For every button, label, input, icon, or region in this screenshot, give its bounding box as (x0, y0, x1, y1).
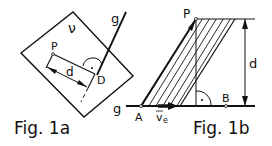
diagram-canvas: ν g P D d Fig. 1a g d P A B v (0, 0, 272, 146)
p-extension (46, 54, 53, 68)
arrowhead-top-1b (242, 19, 248, 29)
label-P-1a: P (51, 40, 58, 53)
label-d-1b: d (249, 56, 257, 71)
label-g-1a: g (111, 11, 119, 26)
right-angle-dot-1a (91, 67, 93, 69)
label-B: B (222, 92, 230, 105)
label-v: v (156, 111, 163, 124)
right-angle-arc-1b (196, 91, 211, 106)
d-dashed (81, 88, 88, 102)
arrowhead-right-1a (77, 80, 87, 87)
arrowhead-bottom-1b (242, 96, 248, 106)
label-v-sub: e (163, 116, 168, 125)
right-angle-dot-1b (201, 99, 203, 101)
label-A: A (135, 111, 143, 124)
right-angle-arc-1a (83, 58, 102, 66)
velocity-arrowhead (168, 102, 178, 110)
point-A (140, 105, 143, 108)
label-D-1a: D (97, 74, 105, 87)
point-P-1a (52, 53, 55, 56)
label-d-1a: d (66, 65, 74, 79)
point-P-1b (195, 18, 198, 21)
caption-fig1b: Fig. 1b (193, 118, 249, 138)
pd-line (53, 54, 95, 74)
caption-fig1a: Fig. 1a (14, 118, 70, 138)
label-g-1b: g (113, 101, 121, 116)
label-P-1b: P (183, 7, 190, 21)
d-extension (88, 74, 95, 88)
arrowhead-left-1a (47, 67, 57, 74)
label-nu: ν (68, 20, 76, 36)
